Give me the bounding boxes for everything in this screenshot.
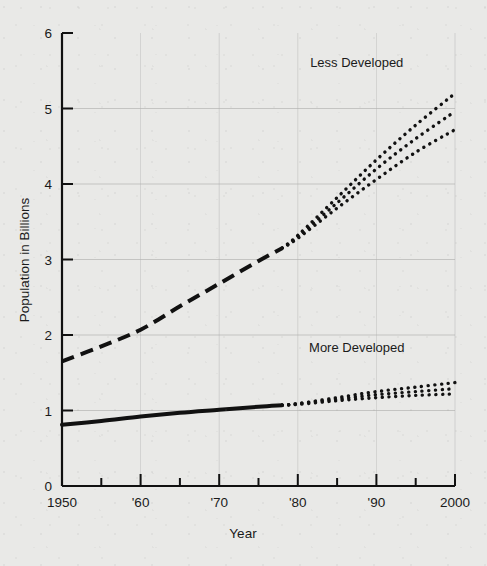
y-tick-label-6: 6 [44,26,52,41]
y-axis-title: Population in Billions [17,197,32,322]
y-tick-label-1: 1 [44,404,52,419]
annotation-more-developed: More Developed [309,340,404,355]
annotation-less-developed: Less Developed [310,55,403,70]
x-axis-title: Year [229,526,257,541]
x-tick-label-1980: '80 [289,495,307,510]
y-tick-label-5: 5 [44,102,52,117]
x-tick-label-1990: '90 [368,495,386,510]
x-tick-label-2000: 2000 [440,495,470,510]
y-tick-label-4: 4 [44,177,52,192]
x-tick-label-1970: '70 [210,495,228,510]
population-projection-chart: 0123456 1950'60'70'80'902000 Less Develo… [0,0,487,566]
y-tick-label-0: 0 [44,479,52,494]
y-tick-label-3: 3 [44,253,52,268]
chart-canvas: 0123456 1950'60'70'80'902000 Less Develo… [0,0,487,566]
chart-background [0,0,487,566]
x-tick-label-1960: '60 [132,495,150,510]
y-tick-label-2: 2 [44,328,52,343]
x-tick-label-1950: 1950 [47,495,77,510]
